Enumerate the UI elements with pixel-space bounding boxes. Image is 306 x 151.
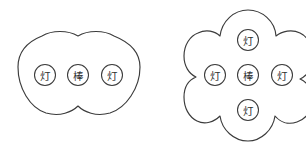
atom-label: 棒 xyxy=(73,70,84,82)
atom-label: 灯 xyxy=(107,70,118,82)
atom-label: 灯 xyxy=(243,35,254,47)
atom-node: 灯 xyxy=(205,65,226,86)
atom-node: 灯 xyxy=(102,65,123,86)
atom-node: 棒 xyxy=(238,65,259,86)
atom-label: 棒 xyxy=(243,70,254,82)
atom-label: 灯 xyxy=(243,105,254,117)
atom-node: 棒 xyxy=(68,65,89,86)
diagram-svg-layer: 灯 棒 灯 灯 灯 棒 xyxy=(0,0,306,151)
atom-node: 灯 xyxy=(238,100,259,121)
atom-node: 灯 xyxy=(238,30,259,51)
atom-node: 灯 xyxy=(272,65,293,86)
atom-label: 灯 xyxy=(277,70,288,82)
diagram-canvas: 灯 棒 灯 灯 灯 棒 xyxy=(0,0,306,151)
atom-label: 灯 xyxy=(40,70,51,82)
atom-node: 灯 xyxy=(35,65,56,86)
atom-label: 灯 xyxy=(210,70,221,82)
cross-cluster-diagram: 灯 灯 棒 灯 灯 xyxy=(184,10,306,141)
linear-cluster-diagram: 灯 棒 灯 xyxy=(18,32,140,115)
